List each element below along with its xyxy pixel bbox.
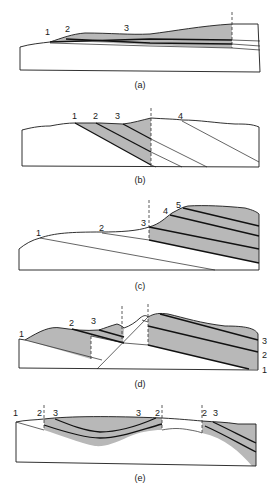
panel-d-label-3: 3	[91, 316, 96, 326]
panel-c: 1 2 3 4 5 (c)	[19, 200, 259, 291]
panel-c-label-4: 4	[163, 206, 168, 216]
panel-c-label-5: 5	[176, 200, 181, 210]
panel-d-right-label-3: 3	[262, 336, 267, 346]
panel-d-caption: (d)	[135, 379, 146, 389]
panel-d-right-label-2: 2	[262, 350, 267, 360]
panel-b-label-2: 2	[93, 111, 98, 121]
panel-a-label-3: 3	[124, 23, 129, 33]
panel-b-right-bed-2	[151, 152, 182, 167]
panel-a: 1 2 3 (a)	[20, 12, 260, 90]
panel-b: 1 2 3 4 (b)	[22, 108, 259, 185]
panel-c-label-1: 1	[36, 228, 41, 238]
panel-c-caption: (c)	[135, 281, 146, 291]
panel-c-label-3: 3	[141, 218, 146, 228]
panel-e-label-2a: 2	[37, 408, 42, 418]
panel-e-label-2b: 2	[155, 408, 160, 418]
panel-a-caption: (a)	[135, 80, 146, 90]
panel-a-right-bed-2	[232, 44, 260, 46]
panel-d-right-shaded-block	[148, 313, 258, 369]
panel-a-right-bed-3	[232, 48, 260, 50]
panel-e-caption: (e)	[135, 473, 146, 483]
panel-e-label-2c: 2	[202, 408, 207, 418]
panel-d-label-2: 2	[69, 318, 74, 328]
panel-e-label-1: 1	[13, 408, 18, 418]
panel-d-label-1: 1	[19, 329, 24, 339]
panel-b-caption: (b)	[135, 175, 146, 185]
panel-e-label-3c: 3	[213, 408, 218, 418]
panel-a-label-1: 1	[45, 27, 50, 37]
panel-e-left-white-bed	[16, 422, 44, 430]
panel-b-label-3: 3	[115, 111, 120, 121]
panel-e: 1 2 3 3 2 2 3 (e)	[13, 405, 256, 483]
panel-c-label-2: 2	[99, 223, 104, 233]
panel-a-label-2: 2	[65, 24, 70, 34]
panel-e-label-3b: 3	[136, 408, 141, 418]
panel-b-right-bed-1	[151, 139, 207, 167]
panel-e-label-3a: 3	[53, 408, 58, 418]
panel-b-label-1: 1	[72, 111, 77, 121]
panel-c-bed-2	[102, 233, 149, 240]
panel-d-right-label-1: 1	[262, 365, 267, 375]
panel-b-shaded-strata	[75, 118, 151, 165]
panel-a-shaded-strata	[50, 24, 232, 48]
geologic-cross-sections-figure: 1 2 3 (a) 1 2 3 4 (b) 1 2 3 4 5	[0, 0, 280, 495]
panel-d: 1 2 3 3 2 1 (d)	[19, 304, 267, 389]
panel-a-right-bed-1	[232, 40, 260, 41]
panel-e-anticline-bed	[162, 429, 202, 434]
panel-b-bed-4	[182, 121, 259, 162]
panel-b-label-4: 4	[178, 111, 183, 121]
